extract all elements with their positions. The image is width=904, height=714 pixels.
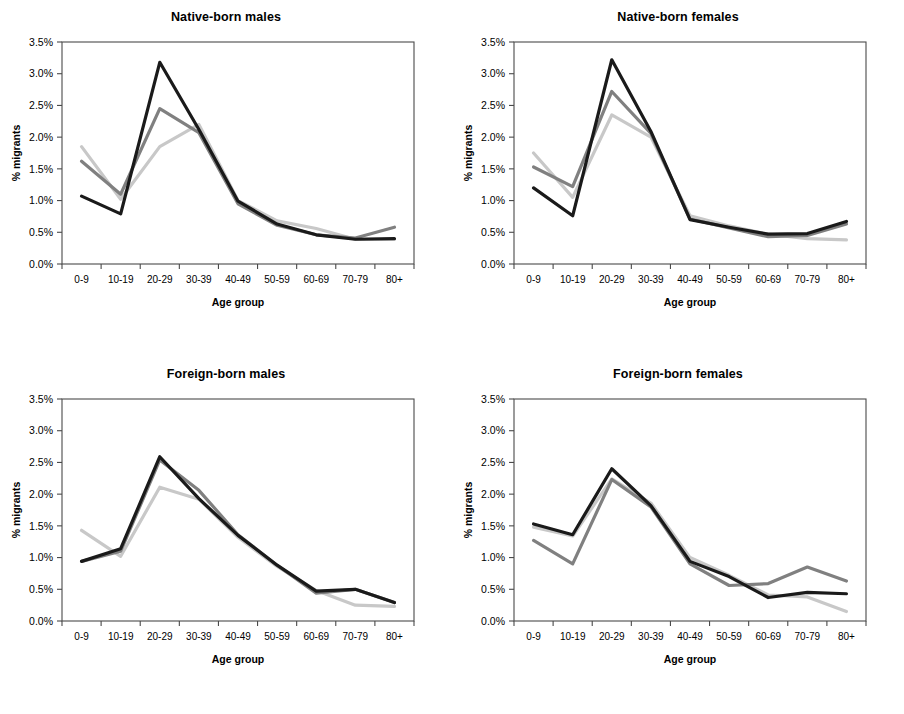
y-tick-label: 0.0% [29,258,53,270]
y-tick-label: 2.0% [29,488,53,500]
y-tick-label: 3.5% [29,393,53,405]
series-line-mid [534,480,847,586]
x-tick-label: 70-79 [343,631,369,642]
y-tick-label: 2.5% [29,456,53,468]
y-tick-label: 1.0% [29,194,53,206]
x-tick-label: 20-29 [599,631,625,642]
x-tick-label: 60-69 [303,631,329,642]
x-axis-title: Age group [212,653,265,665]
x-tick-label: 80+ [838,631,855,642]
chart-plot-area: 0.0%0.5%1.0%1.5%2.0%2.5%3.0%3.5%0-910-19… [452,357,904,714]
y-tick-label: 0.5% [29,226,53,238]
x-tick-label: 60-69 [303,274,329,285]
chart-panel-4: Foreign-born females0.0%0.5%1.0%1.5%2.0%… [452,357,904,714]
y-axis-title: % migrants [462,482,474,539]
series-line-dark [534,469,847,598]
y-tick-label: 3.0% [29,424,53,436]
y-tick-label: 2.0% [481,488,505,500]
x-tick-label: 50-59 [716,631,742,642]
y-tick-label: 0.5% [29,583,53,595]
y-tick-label: 0.5% [481,226,505,238]
x-tick-label: 0-9 [526,631,541,642]
x-tick-label: 30-39 [638,631,664,642]
y-tick-label: 3.0% [29,67,53,79]
x-tick-label: 80+ [386,631,403,642]
x-tick-label: 80+ [386,274,403,285]
x-tick-label: 20-29 [147,274,173,285]
x-tick-label: 40-49 [225,631,251,642]
x-tick-label: 10-19 [560,631,586,642]
x-axis-title: Age group [664,653,717,665]
y-tick-label: 3.5% [481,393,505,405]
x-tick-label: 40-49 [677,631,703,642]
x-tick-label: 40-49 [225,274,251,285]
y-tick-label: 3.0% [481,67,505,79]
series-line-dark [82,62,395,239]
x-tick-label: 70-79 [795,631,821,642]
x-tick-label: 60-69 [755,274,781,285]
plot-frame [62,42,414,264]
x-tick-label: 50-59 [264,274,290,285]
y-tick-label: 2.5% [29,99,53,111]
y-axis-title: % migrants [10,482,22,539]
x-tick-label: 60-69 [755,631,781,642]
chart-panel-1: Native-born males0.0%0.5%1.0%1.5%2.0%2.5… [0,0,452,357]
x-axis-title: Age group [664,296,717,308]
x-tick-label: 50-59 [716,274,742,285]
y-tick-label: 2.5% [481,456,505,468]
y-axis-title: % migrants [10,125,22,182]
series-line-mid [82,109,395,238]
chart-grid: Native-born males0.0%0.5%1.0%1.5%2.0%2.5… [0,0,904,714]
x-tick-label: 70-79 [795,274,821,285]
x-tick-label: 30-39 [638,274,664,285]
x-tick-label: 40-49 [677,274,703,285]
y-tick-label: 0.0% [481,615,505,627]
x-tick-label: 10-19 [560,274,586,285]
chart-panel-3: Foreign-born males0.0%0.5%1.0%1.5%2.0%2.… [0,357,452,714]
y-tick-label: 2.0% [481,131,505,143]
x-tick-label: 30-39 [186,631,212,642]
y-tick-label: 1.0% [481,194,505,206]
y-tick-label: 0.0% [481,258,505,270]
x-tick-label: 0-9 [526,274,541,285]
y-tick-label: 1.5% [481,163,505,175]
y-tick-label: 1.0% [29,551,53,563]
x-tick-label: 10-19 [108,274,134,285]
chart-plot-area: 0.0%0.5%1.0%1.5%2.0%2.5%3.0%3.5%0-910-19… [0,357,452,714]
x-tick-label: 10-19 [108,631,134,642]
y-tick-label: 2.0% [29,131,53,143]
y-tick-label: 3.5% [29,36,53,48]
x-tick-label: 30-39 [186,274,212,285]
y-tick-label: 1.0% [481,551,505,563]
y-tick-label: 3.0% [481,424,505,436]
plot-frame [62,399,414,621]
series-line-dark [534,60,847,234]
y-tick-label: 1.5% [29,163,53,175]
x-tick-label: 0-9 [74,631,89,642]
x-tick-label: 80+ [838,274,855,285]
chart-plot-area: 0.0%0.5%1.0%1.5%2.0%2.5%3.0%3.5%0-910-19… [0,0,452,357]
x-tick-label: 20-29 [147,631,173,642]
x-tick-label: 20-29 [599,274,625,285]
y-tick-label: 2.5% [481,99,505,111]
y-tick-label: 1.5% [29,520,53,532]
y-tick-label: 0.0% [29,615,53,627]
x-tick-label: 70-79 [343,274,369,285]
y-tick-label: 3.5% [481,36,505,48]
y-axis-title: % migrants [462,125,474,182]
chart-panel-2: Native-born females0.0%0.5%1.0%1.5%2.0%2… [452,0,904,357]
series-line-dark [82,457,395,603]
plot-frame [514,399,866,621]
x-tick-label: 50-59 [264,631,290,642]
y-tick-label: 0.5% [481,583,505,595]
y-tick-label: 1.5% [481,520,505,532]
x-axis-title: Age group [212,296,265,308]
chart-plot-area: 0.0%0.5%1.0%1.5%2.0%2.5%3.0%3.5%0-910-19… [452,0,904,357]
x-tick-label: 0-9 [74,274,89,285]
